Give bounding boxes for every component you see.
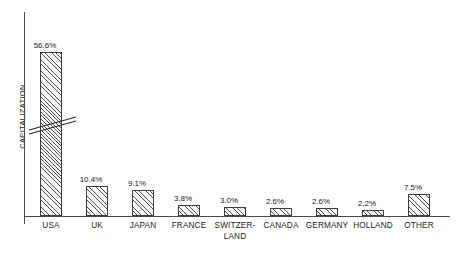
category-label: CANADA	[258, 220, 304, 231]
bar[interactable]	[86, 186, 108, 216]
bar-slot: 2.6%	[258, 12, 304, 216]
bar-value-label: 3.0%	[206, 196, 252, 205]
category-label-line: USA	[42, 221, 59, 230]
bar[interactable]	[40, 52, 62, 216]
category-label-line: UK	[91, 221, 103, 230]
category-label: USA	[28, 220, 74, 231]
bar-value-label: 10.4%	[68, 175, 114, 184]
category-label: GERMANY	[304, 220, 350, 231]
category-label-line: LAND	[212, 231, 258, 242]
category-label: OTHER	[396, 220, 442, 231]
category-labels: USAUKJAPANFRANCESWITZER-LANDCANADAGERMAN…	[24, 220, 450, 254]
category-label: UK	[74, 220, 120, 231]
bar[interactable]	[270, 208, 292, 216]
bar-value-label: 9.1%	[114, 179, 160, 188]
category-label: SWITZER-LAND	[212, 220, 258, 242]
bar-value-label: 3.8%	[160, 194, 206, 203]
x-axis-line	[24, 216, 450, 217]
bar-slot: 7.5%	[396, 12, 442, 216]
category-label-line: HOLLAND	[353, 221, 393, 230]
bar[interactable]	[178, 205, 200, 216]
plot-area: 56.6%10.4%9.1%3.8%3.0%2.6%2.6%2.2%7.5%	[24, 12, 450, 216]
bar-slot: 3.8%	[166, 12, 212, 216]
bar[interactable]	[132, 190, 154, 216]
bar-slot: 3.0%	[212, 12, 258, 216]
bar[interactable]	[408, 194, 430, 216]
bar[interactable]	[224, 207, 246, 216]
category-label-line: CANADA	[263, 221, 298, 230]
category-label-line: OTHER	[404, 221, 433, 230]
bar-slot: 56.6%	[28, 12, 74, 216]
category-label-line: SWITZER-	[215, 221, 256, 230]
bar-value-label: 56.6%	[22, 41, 68, 50]
bar-value-label: 2.6%	[252, 197, 298, 206]
bar[interactable]	[316, 208, 338, 216]
bar-value-label: 2.2%	[344, 199, 390, 208]
category-label: JAPAN	[120, 220, 166, 231]
category-label: FRANCE	[166, 220, 212, 231]
category-label-line: JAPAN	[130, 221, 157, 230]
category-label-line: GERMANY	[306, 221, 348, 230]
bar-chart: CAPITALIZATION 56.6%10.4%9.1%3.8%3.0%2.6…	[0, 0, 459, 256]
bar[interactable]	[362, 210, 384, 216]
category-label: HOLLAND	[350, 220, 396, 231]
bars-container: 56.6%10.4%9.1%3.8%3.0%2.6%2.6%2.2%7.5%	[24, 12, 450, 216]
category-label-line: FRANCE	[172, 221, 207, 230]
bar-slot: 9.1%	[120, 12, 166, 216]
bar-value-label: 7.5%	[390, 183, 436, 192]
bar-value-label: 2.6%	[298, 197, 344, 206]
bar-slot: 2.6%	[304, 12, 350, 216]
